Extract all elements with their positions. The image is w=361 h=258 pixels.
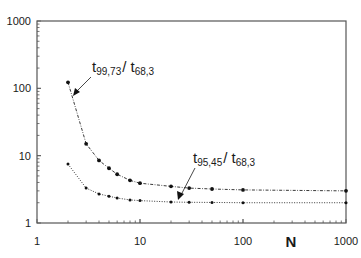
data-point — [345, 201, 348, 204]
arrow-head-icon — [177, 191, 184, 200]
y-tick-label: 100 — [13, 82, 31, 94]
axis-tick-labels: 11010010001101001000 — [7, 15, 359, 247]
y-tick-label: 1 — [25, 217, 31, 229]
x-tick-label: 10 — [134, 235, 146, 247]
x-axis-title: N — [286, 233, 297, 250]
arrow-line — [76, 77, 91, 92]
data-point — [170, 201, 173, 204]
data-point — [116, 197, 119, 200]
data-point — [85, 187, 88, 190]
data-point — [139, 199, 142, 202]
data-point — [210, 201, 213, 204]
data-point — [241, 188, 245, 192]
svg-text:t99,73/ t68,3: t99,73/ t68,3 — [92, 58, 155, 77]
data-point — [187, 186, 191, 190]
data-point — [115, 172, 119, 176]
x-tick-label: 1000 — [334, 235, 358, 247]
chart: 11010010001101001000 N t99,73/ t68,3 t95… — [0, 0, 361, 258]
data-point — [242, 201, 245, 204]
series-t9973-line — [68, 82, 346, 191]
data-point — [138, 181, 142, 185]
arrow-line — [181, 168, 195, 195]
annotation-t9973: t99,73/ t68,3 — [73, 58, 155, 96]
plot-frame — [37, 21, 346, 223]
annotation-t9545: t95,45/ t68,3 — [177, 149, 256, 200]
data-point — [169, 184, 173, 188]
y-tick-label: 10 — [19, 150, 31, 162]
data-point — [129, 198, 132, 201]
data-series — [66, 80, 348, 204]
data-point — [84, 142, 88, 146]
data-point — [210, 187, 214, 191]
data-point — [188, 201, 191, 204]
axis-ticks — [37, 21, 346, 223]
data-point — [107, 195, 110, 198]
y-tick-label: 1000 — [7, 15, 31, 27]
data-point — [128, 178, 132, 182]
x-tick-label: 1 — [34, 235, 40, 247]
data-point — [344, 189, 348, 193]
data-point — [97, 159, 101, 163]
data-point — [67, 163, 70, 166]
data-point — [98, 192, 101, 195]
data-point — [107, 166, 111, 170]
svg-text:t95,45/ t68,3: t95,45/ t68,3 — [193, 149, 256, 168]
x-tick-label: 100 — [234, 235, 252, 247]
data-point — [66, 80, 70, 84]
